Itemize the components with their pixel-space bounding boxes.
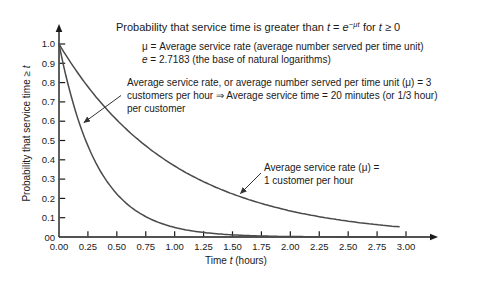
- x-tick-label: 2.50: [339, 241, 358, 252]
- x-tick-label: 0.25: [79, 241, 98, 252]
- x-tick-label: 2.75: [368, 241, 387, 252]
- mu-definition-line: μ = Average service rate (average number…: [142, 40, 424, 53]
- x-tick-label: 2.25: [310, 241, 329, 252]
- mu3-annotation-line2: customers per hour ⇒ Average service tim…: [127, 89, 437, 102]
- y-tick-label: 0.1: [42, 212, 55, 223]
- mu1-annotation-line2: 1 customer per hour: [264, 174, 379, 187]
- mu3-annotation-line3: per customer: [127, 102, 437, 115]
- title-condition: ≥ 0: [382, 21, 400, 33]
- mu1-annotation-line1: Average service rate (μ) =: [264, 161, 379, 174]
- mu1-annotation-arrow: [241, 173, 262, 194]
- curve-mu3: [59, 44, 406, 237]
- y-tick-label: 0.6: [42, 115, 55, 126]
- e-definition-text: = 2.7183 (the base of natural logarithms…: [148, 54, 331, 65]
- x-axis-label: Time t (hours): [205, 254, 267, 267]
- e-definition-line: e = 2.7183 (the base of natural logarith…: [142, 53, 424, 66]
- y-tick-label: 0.9: [42, 58, 55, 69]
- x-tick-label: 1.75: [252, 241, 271, 252]
- x-axis-arrowhead-icon: [430, 234, 438, 241]
- curve-mu1: [59, 44, 399, 227]
- y-axis-arrowhead-icon: [56, 24, 63, 32]
- mu3-annotation: Average service rate, or average number …: [127, 76, 437, 115]
- y-tick-label: 0.2: [42, 193, 55, 204]
- y-tick-label: 0.5: [42, 135, 55, 146]
- title-for-text: for: [360, 21, 379, 33]
- x-tick-label: 2.00: [281, 241, 300, 252]
- y-tick-label: 0.4: [42, 154, 55, 165]
- y-axis-label: Probability that service time ≥ t: [20, 24, 33, 244]
- x-tick-label: 0.50: [108, 241, 127, 252]
- mu3-annotation-line1: Average service rate, or average number …: [127, 76, 437, 89]
- x-tick-label: 3.00: [397, 241, 416, 252]
- y-tick-label: 0.3: [42, 173, 55, 184]
- figure-root: 0.000.250.500.751.001.251.501.752.002.25…: [0, 0, 479, 283]
- mu1-annotation: Average service rate (μ) = 1 customer pe…: [264, 161, 379, 187]
- y-tick-label: 00: [44, 232, 55, 243]
- y-tick-label: 1.0: [42, 38, 55, 49]
- x-axis-label-pre: Time: [205, 255, 230, 266]
- x-tick-label: 1.00: [165, 241, 184, 252]
- x-tick-label: 0.00: [50, 241, 69, 252]
- x-tick-label: 0.75: [137, 241, 156, 252]
- y-tick-label: 0.7: [42, 96, 55, 107]
- x-tick-label: 1.25: [194, 241, 213, 252]
- title-text: Probability that service time is greater…: [116, 21, 327, 33]
- y-axis-label-text: Probability that service time ≥: [21, 68, 32, 201]
- title-equals: =: [330, 21, 343, 33]
- x-tick-label: 1.50: [223, 241, 242, 252]
- y-axis-label-t-variable: t: [21, 65, 32, 68]
- x-axis-label-post: (hours): [232, 255, 266, 266]
- y-tick-label: 0.8: [42, 77, 55, 88]
- title-exponent: −μt: [349, 20, 360, 29]
- chart-title: Probability that service time is greater…: [116, 18, 400, 34]
- definition-notes: μ = Average service rate (average number…: [142, 40, 424, 66]
